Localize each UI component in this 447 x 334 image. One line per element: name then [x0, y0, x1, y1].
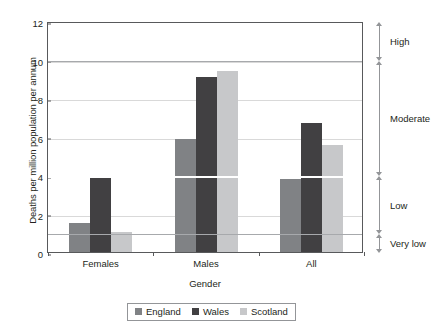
- legend-label: England: [146, 306, 181, 317]
- legend-swatch-icon: [240, 308, 247, 315]
- threshold-line: [48, 234, 362, 235]
- double-arrow-icon: [375, 234, 384, 253]
- legend-label: Scotland: [251, 306, 288, 317]
- x-axis-tick: [153, 252, 154, 256]
- x-axis-tick: [364, 252, 365, 256]
- y-axis-title: Deaths per million population per annum: [27, 36, 38, 246]
- legend-swatch-icon: [135, 308, 142, 315]
- x-axis-tick: [259, 252, 260, 256]
- chart-legend: EnglandWalesScotland: [127, 303, 296, 321]
- risk-band-label: Moderate: [390, 113, 430, 124]
- double-arrow-icon: [375, 176, 384, 234]
- chart-figure: Deaths per million population per annum …: [0, 0, 447, 334]
- bar-england-females: [69, 223, 90, 252]
- legend-swatch-icon: [192, 308, 199, 315]
- bar-wales-females: [90, 178, 111, 252]
- x-axis-title: Gender: [47, 278, 363, 289]
- bar-scotland-females: [111, 232, 132, 252]
- risk-band-very-low: Very low: [366, 234, 447, 253]
- double-arrow-icon: [375, 22, 384, 61]
- bar-scotland-males: [217, 71, 238, 252]
- risk-band-low: Low: [366, 176, 447, 234]
- bar-wales-all: [301, 123, 322, 252]
- y-axis-tick-label: 4: [38, 172, 48, 183]
- risk-band-annotations: HighModerateLowVery low: [366, 22, 447, 253]
- x-axis-tick-label: Females: [82, 258, 118, 269]
- risk-band-label: Low: [390, 199, 407, 210]
- bar-scotland-all: [322, 145, 343, 252]
- y-axis-tick-label: 2: [38, 210, 48, 221]
- plot-area: 024681012FemalesMalesAll: [47, 22, 363, 253]
- threshold-line: [48, 176, 362, 178]
- risk-band-label: High: [390, 36, 410, 47]
- bar-england-all: [280, 179, 301, 252]
- bar-wales-males: [196, 77, 217, 252]
- x-axis-tick: [48, 252, 49, 256]
- legend-item-scotland[interactable]: Scotland: [240, 306, 288, 317]
- y-axis-tick-label: 0: [38, 249, 48, 260]
- gridline: [48, 62, 362, 63]
- risk-band-moderate: Moderate: [366, 61, 447, 177]
- y-axis-tick-label: 12: [32, 18, 48, 29]
- legend-label: Wales: [203, 306, 229, 317]
- y-axis-tick-label: 10: [32, 56, 48, 67]
- legend-item-england[interactable]: England: [135, 306, 181, 317]
- y-axis-tick-label: 6: [38, 133, 48, 144]
- legend-item-wales[interactable]: Wales: [192, 306, 229, 317]
- x-axis-tick-label: Males: [193, 258, 218, 269]
- x-axis-tick-label: All: [306, 258, 317, 269]
- threshold-line: [48, 61, 362, 62]
- bar-england-males: [175, 139, 196, 252]
- risk-band-label: Very low: [390, 238, 426, 249]
- double-arrow-icon: [375, 61, 384, 177]
- y-axis-tick-label: 8: [38, 95, 48, 106]
- risk-band-high: High: [366, 22, 447, 61]
